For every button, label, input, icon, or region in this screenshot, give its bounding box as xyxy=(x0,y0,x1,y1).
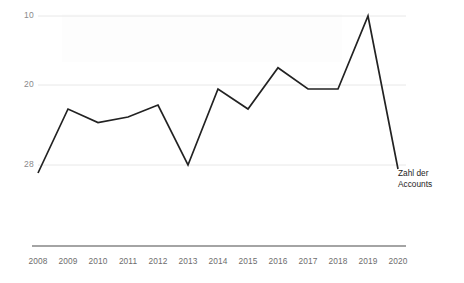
x-axis-tick-label: 2015 xyxy=(233,256,263,266)
x-axis-tick-label: 2013 xyxy=(173,256,203,266)
x-axis-tick-label: 2016 xyxy=(263,256,293,266)
x-axis-tick-label: 2019 xyxy=(353,256,383,266)
gridlines xyxy=(38,16,406,165)
x-axis-tick-label: 2011 xyxy=(113,256,143,266)
x-axis-tick-label: 2009 xyxy=(53,256,83,266)
x-axis-tick-label: 2012 xyxy=(143,256,173,266)
series-legend-line2: Accounts xyxy=(398,179,460,190)
y-axis-tick-label: 10 xyxy=(12,10,34,20)
chart-plot-area xyxy=(0,0,464,283)
series-legend-label: Zahl der Accounts xyxy=(398,168,460,190)
x-axis-tick-label: 2014 xyxy=(203,256,233,266)
y-axis-tick-label: 28 xyxy=(12,159,34,169)
series-legend-line1: Zahl der xyxy=(398,168,460,179)
x-axis-tick-label: 2017 xyxy=(293,256,323,266)
x-axis-tick-label: 2008 xyxy=(23,256,53,266)
x-axis-tick-label: 2018 xyxy=(323,256,353,266)
data-series-line xyxy=(38,16,398,173)
x-axis-tick-label: 2010 xyxy=(83,256,113,266)
line-chart: 102028 200820092010201120122013201420152… xyxy=(0,0,464,283)
y-axis-tick-label: 20 xyxy=(12,79,34,89)
x-axis-tick-label: 2020 xyxy=(383,256,413,266)
